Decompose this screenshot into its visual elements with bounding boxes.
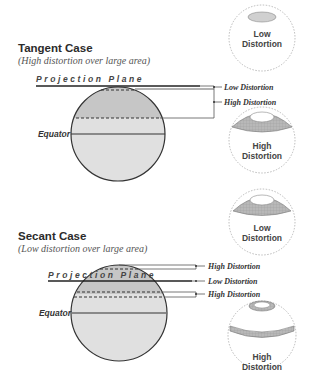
secant-callout-high-bottom: High Distortion <box>207 290 261 299</box>
tangent-inset-low: Low Distortion <box>229 5 295 71</box>
secant-callout-high-top: High Distortion <box>207 262 261 271</box>
secant-plane-label: Projection Plane <box>48 270 156 280</box>
svg-text:High: High <box>253 141 272 151</box>
map-projection-diagram: Projection Plane Equator Low Distortion … <box>0 0 317 386</box>
svg-text:Distortion: Distortion <box>242 39 282 49</box>
svg-text:Low: Low <box>254 29 271 39</box>
secant-equator-label: Equator <box>39 308 72 318</box>
tangent-inset-high: High Distortion <box>229 107 295 173</box>
svg-text:Distortion: Distortion <box>242 151 282 161</box>
tangent-equator-label: Equator <box>38 129 71 139</box>
tangent-globe <box>60 80 180 181</box>
svg-text:Low: Low <box>254 223 271 233</box>
svg-text:Distortion: Distortion <box>242 233 282 243</box>
tangent-callout-low: Low Distortion <box>223 83 274 92</box>
secant-inset-low: Low Distortion <box>229 189 295 255</box>
secant-inset-high: High Distortion <box>228 301 296 372</box>
secant-callout-low: Low Distortion <box>207 277 258 286</box>
svg-text:Distortion: Distortion <box>242 362 282 372</box>
tangent-callout-high: High Distortion <box>223 98 277 107</box>
svg-text:High: High <box>253 352 272 362</box>
tangent-plane-label: Projection Plane <box>36 74 144 84</box>
